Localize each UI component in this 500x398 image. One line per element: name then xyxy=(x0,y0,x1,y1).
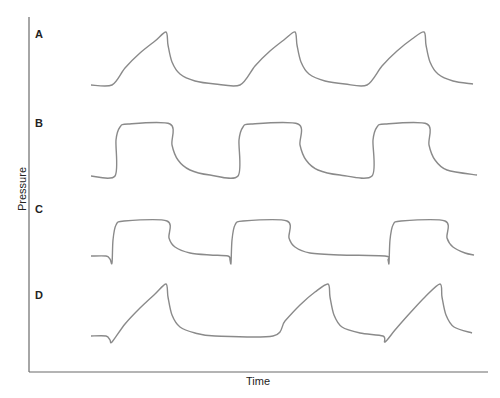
panel-label-c: C xyxy=(35,203,43,215)
waveform-b xyxy=(91,122,477,178)
waveform-d xyxy=(91,284,472,343)
panel-label-d: D xyxy=(35,289,43,301)
panel-label-b: B xyxy=(35,117,43,129)
waveform-a xyxy=(91,32,473,86)
y-axis-label: Pressure xyxy=(16,159,28,219)
waveform-traces xyxy=(91,32,477,343)
panel-label-a: A xyxy=(35,28,43,40)
x-axis-label: Time xyxy=(246,375,270,387)
pressure-time-figure: A B C D Pressure Time xyxy=(0,0,500,398)
waveform-c xyxy=(91,220,474,264)
chart-canvas xyxy=(0,0,500,398)
